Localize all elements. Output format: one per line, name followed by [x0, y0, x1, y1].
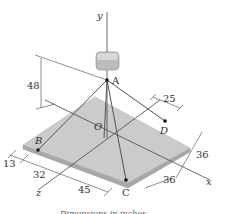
label-x: x — [206, 176, 212, 187]
dim-13: 13 — [3, 158, 16, 169]
mechanics-diagram: y A O B C D x z 48 25 13 32 45 36 36 Dim… — [0, 0, 225, 214]
dim-48: 48 — [27, 80, 40, 91]
dim-45: 45 — [78, 184, 91, 195]
dim-48-ext — [36, 104, 55, 109]
label-y: y — [96, 10, 103, 21]
dim-25-ext1 — [150, 94, 156, 100]
dim-25-ext2 — [177, 105, 183, 111]
label-C: C — [122, 187, 130, 198]
label-O: O — [94, 121, 102, 132]
label-B: B — [34, 135, 42, 146]
dim-tick-3 — [104, 188, 112, 196]
dim-36-front: 36 — [163, 174, 176, 185]
point-D — [163, 119, 167, 123]
point-C — [124, 178, 128, 182]
weight-block-top — [97, 53, 118, 60]
label-A: A — [111, 75, 120, 86]
label-D: D — [159, 125, 168, 136]
dim-36-right: 36 — [196, 149, 209, 160]
label-z: z — [35, 187, 42, 198]
point-B — [37, 149, 40, 152]
caption: Dimensions in inches — [59, 209, 146, 214]
dim-32: 32 — [33, 169, 46, 180]
point-A — [105, 78, 109, 82]
dim-25: 25 — [163, 93, 176, 104]
